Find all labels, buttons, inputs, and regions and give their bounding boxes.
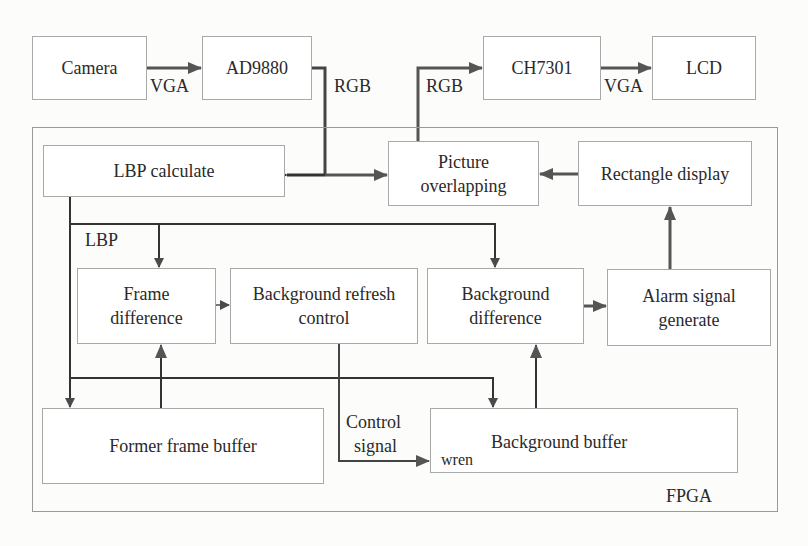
- background-difference-label-2: difference: [469, 306, 542, 330]
- picture-overlapping-block: Picture overlapping: [388, 141, 539, 206]
- wren-port-label: wren: [441, 451, 473, 469]
- rectangle-display-label: Rectangle display: [601, 162, 729, 186]
- alarm-signal-generate-block: Alarm signal generate: [607, 269, 771, 346]
- lbp-calculate-label: LBP calculate: [114, 159, 215, 183]
- ch7301-block: CH7301: [483, 36, 601, 100]
- lcd-label: LCD: [686, 56, 722, 80]
- ad9880-label: AD9880: [226, 56, 288, 80]
- background-buffer-block: Background buffer wren: [430, 408, 738, 473]
- former-frame-buffer-label: Former frame buffer: [109, 434, 257, 458]
- lbp-label: LBP: [85, 230, 118, 250]
- rectangle-display-block: Rectangle display: [578, 141, 752, 206]
- vga-label-1: VGA: [150, 76, 189, 96]
- alarm-signal-generate-label-2: generate: [659, 308, 720, 332]
- camera-label: Camera: [62, 56, 118, 80]
- frame-difference-label-2: difference: [110, 306, 183, 330]
- picture-overlapping-label-2: overlapping: [421, 174, 507, 198]
- frame-difference-label-1: Frame: [124, 282, 170, 306]
- control-label-2: signal: [354, 436, 397, 456]
- camera-block: Camera: [32, 36, 147, 100]
- background-buffer-label: Background buffer: [491, 430, 627, 454]
- background-refresh-control-label-2: control: [299, 306, 350, 330]
- lbp-calculate-block: LBP calculate: [43, 145, 285, 197]
- control-label-1: Control: [346, 412, 401, 432]
- diagram-canvas: Camera AD9880 CH7301 LCD LBP calculate P…: [0, 0, 808, 546]
- fpga-label: FPGA: [666, 486, 712, 506]
- background-refresh-control-block: Background refresh control: [230, 268, 418, 344]
- picture-overlapping-label-1: Picture: [438, 150, 489, 174]
- ad9880-block: AD9880: [202, 36, 312, 100]
- alarm-signal-generate-label-1: Alarm signal: [642, 284, 735, 308]
- vga-label-2: VGA: [604, 76, 643, 96]
- former-frame-buffer-block: Former frame buffer: [42, 408, 324, 484]
- background-refresh-control-label-1: Background refresh: [253, 282, 395, 306]
- background-difference-label-1: Background: [462, 282, 550, 306]
- rgb-label-1: RGB: [334, 76, 371, 96]
- background-difference-block: Background difference: [427, 268, 584, 344]
- ch7301-label: CH7301: [511, 56, 572, 80]
- frame-difference-block: Frame difference: [77, 268, 216, 344]
- rgb-label-2: RGB: [426, 76, 463, 96]
- lcd-block: LCD: [652, 36, 756, 100]
